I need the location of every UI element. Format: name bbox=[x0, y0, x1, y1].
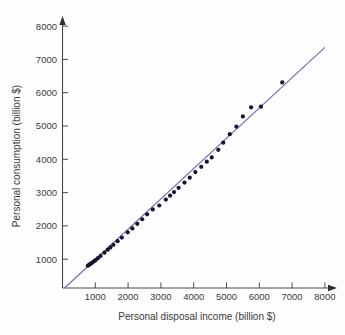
data-point bbox=[111, 243, 115, 247]
x-tick-label: 7000 bbox=[282, 291, 303, 302]
data-point bbox=[234, 125, 238, 129]
data-point bbox=[130, 226, 134, 230]
y-axis-arrow-icon bbox=[59, 16, 65, 25]
data-point bbox=[168, 194, 172, 198]
x-tick-label: 2000 bbox=[118, 291, 139, 302]
data-point bbox=[221, 141, 225, 145]
chart-figure: 1000 2000 3000 4000 5000 6000 7000 8000 … bbox=[0, 0, 345, 335]
data-point bbox=[135, 222, 139, 226]
data-point bbox=[102, 251, 106, 255]
x-tick-label: 1000 bbox=[85, 291, 106, 302]
data-point bbox=[259, 105, 263, 109]
y-tick-label: 5000 bbox=[36, 120, 57, 131]
y-tick-label: 7000 bbox=[36, 54, 57, 65]
data-point bbox=[241, 114, 245, 118]
y-tick-marks bbox=[63, 26, 69, 259]
data-point bbox=[116, 239, 120, 243]
x-tick-label: 6000 bbox=[249, 291, 270, 302]
scatter-plot: 1000 2000 3000 4000 5000 6000 7000 8000 … bbox=[0, 0, 345, 335]
x-tick-label: 4000 bbox=[183, 291, 204, 302]
data-point bbox=[164, 198, 168, 202]
x-axis-title: Personal disposal income (billion $) bbox=[118, 311, 275, 322]
x-tick-label: 3000 bbox=[150, 291, 171, 302]
data-point bbox=[228, 132, 232, 136]
data-point bbox=[145, 212, 149, 216]
x-tick-label: 8000 bbox=[314, 291, 335, 302]
y-axis-title: Personal consumption (billion $) bbox=[11, 85, 22, 227]
y-tick-label: 8000 bbox=[36, 21, 57, 32]
data-point bbox=[172, 190, 176, 194]
data-point bbox=[182, 180, 186, 184]
data-point bbox=[216, 148, 220, 152]
x-tick-label: 5000 bbox=[216, 291, 237, 302]
data-point bbox=[126, 230, 130, 234]
data-points-group bbox=[86, 80, 285, 268]
data-point bbox=[249, 105, 253, 109]
y-tick-labels: 1000 2000 3000 4000 5000 6000 7000 8000 bbox=[36, 21, 57, 265]
data-point bbox=[157, 203, 161, 207]
data-point bbox=[151, 207, 155, 211]
data-point bbox=[98, 254, 102, 258]
y-tick-label: 1000 bbox=[36, 254, 57, 265]
data-point bbox=[120, 235, 124, 239]
data-point bbox=[193, 170, 197, 174]
data-point bbox=[199, 165, 203, 169]
y-tick-label: 4000 bbox=[36, 154, 57, 165]
data-point bbox=[280, 80, 284, 84]
data-point bbox=[188, 176, 192, 180]
data-point bbox=[140, 217, 144, 221]
y-tick-label: 3000 bbox=[36, 187, 57, 198]
data-point bbox=[210, 155, 214, 159]
x-tick-marks bbox=[95, 283, 325, 289]
y-tick-label: 2000 bbox=[36, 220, 57, 231]
x-tick-labels: 1000 2000 3000 4000 5000 6000 7000 8000 bbox=[85, 291, 336, 302]
data-point bbox=[177, 186, 181, 190]
y-tick-label: 6000 bbox=[36, 87, 57, 98]
data-point bbox=[205, 160, 209, 164]
